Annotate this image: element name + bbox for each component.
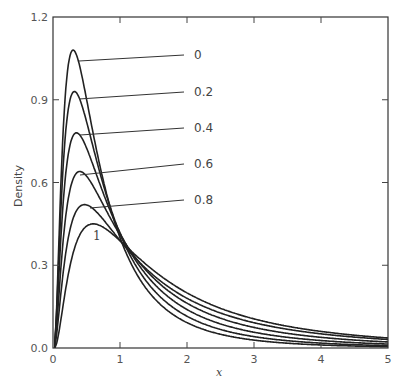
leader-line: [80, 164, 184, 175]
y-tick-label: 0.0: [31, 342, 49, 355]
plot-area: [55, 50, 388, 348]
y-tick-label: 0.6: [31, 177, 49, 190]
density-curve-0-4: [55, 133, 388, 348]
curve-label: 0.6: [194, 157, 213, 171]
curve-label: 0.2: [194, 85, 213, 99]
y-tick-label: 1.2: [31, 11, 49, 24]
x-tick-label: 1: [117, 353, 124, 366]
leader-line: [79, 92, 184, 99]
leader-line: [80, 128, 184, 135]
y-axis-title: Density: [12, 165, 25, 207]
x-axis-title: x: [216, 366, 223, 379]
leader-line: [90, 200, 184, 208]
curve-label: 0.8: [194, 193, 213, 207]
x-tick-label: 0: [50, 353, 57, 366]
density-chart: 012345 0.00.30.60.91.2 x Density 00.20.4…: [0, 0, 404, 391]
density-curve-0-8: [55, 205, 388, 348]
y-tick-label: 0.9: [31, 94, 49, 107]
curve-label: 0: [194, 48, 202, 62]
x-tick-label: 4: [318, 353, 325, 366]
curve-label: 0.4: [194, 121, 213, 135]
x-tick-label: 5: [385, 353, 392, 366]
x-tick-label: 2: [184, 353, 191, 366]
leader-line: [79, 55, 184, 61]
y-tick-label: 0.3: [31, 259, 49, 272]
x-tick-label: 3: [251, 353, 258, 366]
curve-label: 1: [93, 229, 101, 243]
